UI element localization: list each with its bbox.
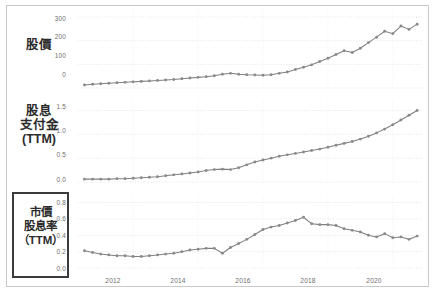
data-point xyxy=(213,74,216,77)
data-point xyxy=(197,76,200,79)
data-point xyxy=(375,131,378,134)
row-label-dividend-yield: 市價 股息率 （TTM） xyxy=(14,206,67,247)
data-point xyxy=(391,32,394,35)
data-point xyxy=(164,79,167,82)
data-point xyxy=(140,176,143,179)
data-point xyxy=(367,41,370,44)
data-point xyxy=(335,53,338,56)
data-point xyxy=(132,255,135,258)
data-point xyxy=(189,77,192,80)
data-point xyxy=(408,114,411,117)
data-point xyxy=(335,224,338,227)
data-point xyxy=(237,242,240,245)
data-point xyxy=(383,30,386,33)
row-label-stock-price-line-0: 股價 xyxy=(10,38,68,52)
data-point xyxy=(262,74,265,77)
data-point xyxy=(189,171,192,174)
ytick-yield-2: 0.4 xyxy=(40,232,66,239)
data-point xyxy=(302,66,305,69)
data-point xyxy=(302,216,305,219)
plot-area-stock-price xyxy=(78,10,422,88)
row-label-dividend-line-2: (TTM) xyxy=(8,132,70,146)
data-point xyxy=(351,140,354,143)
ytick-yield-3: 0.6 xyxy=(40,215,66,222)
data-point xyxy=(262,159,265,162)
data-point xyxy=(359,47,362,50)
plot-area-dividend-payment xyxy=(78,100,422,182)
data-point xyxy=(156,253,159,256)
data-point xyxy=(286,222,289,225)
data-point xyxy=(115,254,118,257)
data-point xyxy=(172,252,175,255)
data-point xyxy=(326,223,329,226)
data-point xyxy=(375,235,378,238)
data-point xyxy=(286,70,289,73)
series-line xyxy=(84,24,417,85)
data-point xyxy=(391,123,394,126)
data-point xyxy=(318,60,321,63)
data-point xyxy=(140,80,143,83)
data-point xyxy=(294,68,297,71)
data-point xyxy=(99,82,102,85)
ytick-dividend-2: 1.0 xyxy=(40,127,66,134)
data-point xyxy=(156,79,159,82)
data-point xyxy=(399,235,402,238)
data-point xyxy=(408,28,411,31)
data-point xyxy=(326,57,329,60)
data-point xyxy=(124,177,127,180)
data-point xyxy=(221,252,224,255)
panel-dividend-yield xyxy=(78,196,422,268)
data-point xyxy=(245,238,248,241)
data-point xyxy=(205,247,208,250)
data-point xyxy=(229,72,232,75)
data-point xyxy=(180,250,183,253)
data-point xyxy=(148,79,151,82)
data-point xyxy=(148,176,151,179)
data-point xyxy=(270,73,273,76)
data-point xyxy=(335,144,338,147)
data-point xyxy=(205,75,208,78)
chart-figure: 股價 300 200 100 0 股息 支付金 (TTM) 1.5 1.0 0.… xyxy=(0,0,436,294)
xtick-1: 2014 xyxy=(160,277,196,284)
data-point xyxy=(124,254,127,257)
xtick-0: 2012 xyxy=(95,277,131,284)
data-point xyxy=(229,168,232,171)
data-point xyxy=(132,177,135,180)
data-point xyxy=(180,172,183,175)
data-point xyxy=(221,168,224,171)
ytick-yield-4: 0.8 xyxy=(40,199,66,206)
data-point xyxy=(351,229,354,232)
xtick-3: 2018 xyxy=(290,277,326,284)
ytick-price-3: 300 xyxy=(40,15,66,22)
data-point xyxy=(391,236,394,239)
data-point xyxy=(229,246,232,249)
data-point xyxy=(278,224,281,227)
data-point xyxy=(83,178,86,181)
data-point xyxy=(115,81,118,84)
data-point xyxy=(294,219,297,222)
data-point xyxy=(83,249,86,252)
data-point xyxy=(294,152,297,155)
ytick-price-1: 100 xyxy=(40,52,66,59)
dividend-payment-line-chart xyxy=(78,100,422,182)
data-point xyxy=(367,135,370,138)
data-point xyxy=(197,171,200,174)
data-point xyxy=(343,227,346,230)
data-point xyxy=(91,251,94,254)
data-point xyxy=(318,223,321,226)
data-point xyxy=(189,249,192,252)
data-point xyxy=(213,168,216,171)
data-point xyxy=(416,235,419,238)
data-point xyxy=(375,36,378,39)
data-point xyxy=(351,51,354,54)
panel-dividend-payment xyxy=(78,100,422,182)
ytick-dividend-1: 0.5 xyxy=(40,151,66,158)
data-point xyxy=(359,138,362,141)
data-point xyxy=(156,175,159,178)
data-point xyxy=(148,254,151,257)
xtick-4: 2020 xyxy=(356,277,392,284)
data-point xyxy=(343,142,346,145)
xtick-2: 2016 xyxy=(225,277,261,284)
data-point xyxy=(205,169,208,172)
data-point xyxy=(237,166,240,169)
